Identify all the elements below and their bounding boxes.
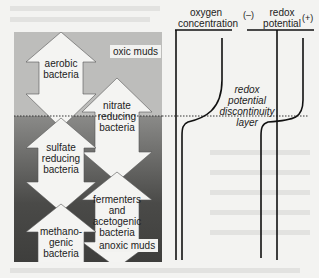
oxygen-curve	[182, 38, 222, 260]
oxygen-header: oxygenconcentration	[178, 7, 234, 29]
redox-curve	[261, 38, 303, 258]
profile-chart	[0, 0, 319, 278]
redox-minus: (–)	[243, 10, 254, 21]
redox-plus: (+)	[302, 13, 313, 24]
rpd-label: redoxpotentialdiscontinuitylayer	[214, 84, 280, 128]
